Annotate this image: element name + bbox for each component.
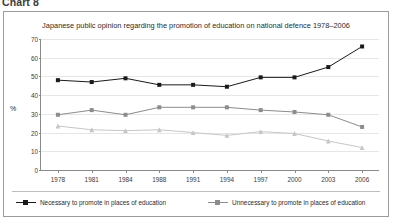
x-tick-label: 1988 — [152, 176, 166, 183]
data-point — [56, 113, 60, 117]
y-tick-label: 40 — [31, 92, 38, 99]
legend-item[interactable]: Necessary to promote in places of educat… — [16, 198, 166, 206]
data-point — [157, 83, 161, 87]
y-tick-label: 10 — [31, 148, 38, 155]
x-tick-mark — [328, 170, 329, 173]
x-tick-label: 2000 — [287, 176, 301, 183]
data-point — [225, 85, 229, 89]
y-axis-label: % — [10, 105, 16, 112]
data-point — [157, 105, 161, 109]
data-point — [56, 78, 60, 82]
series-line — [58, 107, 362, 127]
x-tick-mark — [295, 170, 296, 173]
x-tick-mark — [227, 170, 228, 173]
series-0 — [56, 44, 364, 88]
data-point — [259, 75, 263, 79]
y-tick-label: 50 — [31, 73, 38, 80]
x-tick-label: 1997 — [254, 176, 268, 183]
data-point — [90, 80, 94, 84]
y-tick-label: 70 — [31, 36, 38, 43]
chart-legend: Necessary to promote in places of educat… — [12, 191, 380, 210]
data-point — [124, 76, 128, 80]
data-point — [90, 108, 94, 112]
x-tick-label: 1991 — [186, 176, 200, 183]
data-point — [259, 108, 263, 112]
data-point — [191, 83, 195, 87]
chart-title: Japanese public opinion regarding the pr… — [4, 21, 388, 30]
x-tick-mark — [159, 170, 160, 173]
figure-caption: Chart 8 — [2, 0, 39, 8]
y-tick-label: 60 — [31, 54, 38, 61]
legend-label: Necessary to promote in places of educat… — [40, 199, 166, 206]
x-tick-mark — [261, 170, 262, 173]
y-tick-label: 20 — [31, 129, 38, 136]
x-tick-label: 2006 — [355, 176, 369, 183]
x-tick-label: 1984 — [118, 176, 132, 183]
series-line — [58, 126, 362, 148]
legend-label: Unnecessary to promote in places of educ… — [232, 199, 365, 206]
x-tick-label: 1994 — [220, 176, 234, 183]
data-point — [326, 113, 330, 117]
data-point — [326, 65, 330, 69]
plot-area: 010203040506070 197819811984198819911994… — [40, 39, 379, 171]
data-point — [293, 75, 297, 79]
data-point — [225, 105, 229, 109]
data-point — [293, 110, 297, 114]
y-tick-label: 30 — [31, 110, 38, 117]
series-line — [58, 46, 362, 86]
data-point — [360, 125, 364, 129]
x-tick-mark — [193, 170, 194, 173]
series-2 — [56, 124, 365, 150]
x-tick-label: 2003 — [321, 176, 335, 183]
x-tick-label: 1978 — [51, 176, 65, 183]
legend-swatch-icon — [208, 198, 228, 206]
data-point — [360, 44, 364, 48]
x-tick-mark — [58, 170, 59, 173]
series-1 — [56, 105, 364, 129]
data-point — [191, 105, 195, 109]
y-tick-label: 0 — [34, 167, 38, 174]
x-tick-mark — [92, 170, 93, 173]
x-tick-label: 1981 — [85, 176, 99, 183]
chart-container: Japanese public opinion regarding the pr… — [3, 11, 389, 217]
y-tick-mark — [39, 170, 41, 171]
legend-item[interactable]: Unnecessary to promote in places of educ… — [208, 198, 365, 206]
legend-swatch-icon — [16, 198, 36, 206]
x-tick-mark — [126, 170, 127, 173]
data-point — [124, 113, 128, 117]
x-tick-mark — [362, 170, 363, 173]
series-layer — [41, 39, 379, 170]
